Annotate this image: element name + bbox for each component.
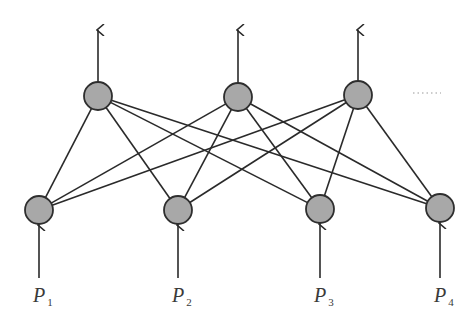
input-label-subscript: 2 xyxy=(186,296,192,308)
input-label-p2: P2 xyxy=(171,284,192,308)
input-label-p1: P1 xyxy=(32,284,53,308)
neural-network-diagram: P1P2P3P4 xyxy=(0,0,474,328)
input-neuron-4 xyxy=(426,194,454,222)
input-label-subscript: 1 xyxy=(47,296,53,308)
input-label-p3: P3 xyxy=(313,284,334,308)
output-neuron-1 xyxy=(84,82,112,110)
connection-input4-output3 xyxy=(366,106,432,196)
input-label-subscript: 3 xyxy=(328,296,334,308)
input-neuron-3 xyxy=(306,195,334,223)
input-label-p4: P4 xyxy=(433,284,454,308)
input-label-symbol: P xyxy=(171,284,184,306)
nodes-group xyxy=(25,81,454,224)
connection-input1-output2 xyxy=(51,104,226,203)
input-labels-group: P1P2P3P4 xyxy=(32,284,454,308)
input-label-symbol: P xyxy=(313,284,326,306)
connections-group xyxy=(45,100,431,206)
input-neuron-1 xyxy=(25,196,53,224)
input-neuron-2 xyxy=(164,196,192,224)
connection-input1-output3 xyxy=(52,100,345,206)
output-neuron-3 xyxy=(344,81,372,109)
connection-input3-output2 xyxy=(246,108,311,197)
input-label-symbol: P xyxy=(32,284,45,306)
connection-input3-output3 xyxy=(324,108,353,195)
input-label-symbol: P xyxy=(433,284,446,306)
connection-input2-output3 xyxy=(190,103,346,203)
arrows-group xyxy=(39,30,440,278)
input-label-subscript: 4 xyxy=(448,296,454,308)
output-neuron-2 xyxy=(224,83,252,111)
